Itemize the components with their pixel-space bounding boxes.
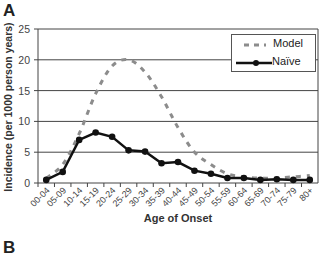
naive-data-point <box>125 147 132 154</box>
naive-data-point <box>92 129 99 136</box>
naive-data-point <box>306 177 313 184</box>
naive-data-point <box>175 159 182 166</box>
x-tick-label: 75-79 <box>275 185 298 208</box>
legend-label-naive: Naïve <box>272 55 301 67</box>
y-tick-label: 20 <box>18 54 30 66</box>
naive-data-point <box>274 176 281 183</box>
naive-data-point <box>158 160 165 167</box>
naive-data-point <box>76 137 83 144</box>
naive-data-point <box>224 175 231 182</box>
y-tick-label: 10 <box>18 115 30 127</box>
x-tick-label: 80+ <box>297 185 315 203</box>
naive-series-line <box>46 132 310 179</box>
panel-b-label: B <box>3 238 15 258</box>
legend: Model Naïve <box>231 34 316 72</box>
naive-data-point <box>208 170 215 177</box>
naive-data-point <box>257 177 264 184</box>
x-axis-label: Age of Onset <box>144 212 212 224</box>
naive-data-point <box>290 177 297 184</box>
naive-data-point <box>241 175 248 182</box>
naive-data-point <box>43 177 50 184</box>
legend-label-model: Model <box>273 37 303 49</box>
line-marker-icon <box>232 55 272 71</box>
y-axis-label: Incidence (per 1000 person years) <box>2 22 14 191</box>
naive-data-point <box>191 167 198 174</box>
y-tick-label: 25 <box>18 23 30 35</box>
legend-item-model: Model <box>232 37 315 53</box>
dashed-line-icon <box>232 37 272 53</box>
naive-data-point <box>109 134 116 141</box>
naive-data-point <box>142 148 149 155</box>
y-tick-label: 5 <box>24 146 30 158</box>
naive-data-point <box>59 169 66 176</box>
y-tick-label: 15 <box>18 85 30 97</box>
y-tick-label: 0 <box>24 177 30 189</box>
legend-item-naive: Naïve <box>232 55 315 71</box>
